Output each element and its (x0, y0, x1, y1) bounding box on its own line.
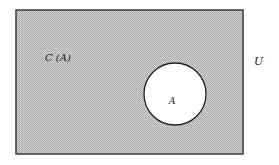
complement-label: C (A) (45, 52, 71, 63)
universe-rectangle (16, 10, 243, 154)
universe-label: U (254, 55, 264, 68)
set-a-label: A (168, 96, 176, 106)
venn-diagram: C (A) A U (0, 0, 279, 165)
set-a-circle (144, 63, 206, 125)
